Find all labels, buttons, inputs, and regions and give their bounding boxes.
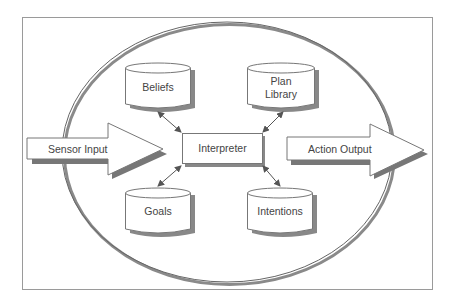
bdi-diagram: Sensor Input Action Output Interpreter B… [0, 0, 454, 307]
action-output-arrow: Action Output [287, 124, 428, 179]
edge-intentions-interpreter [263, 166, 280, 186]
plan-library-store: Plan Library [248, 63, 320, 112]
sensor-input-label: Sensor Input [48, 143, 108, 155]
interpreter-box: Interpreter [183, 134, 266, 168]
plan-library-label-line2: Library [265, 88, 298, 100]
intentions-label: Intentions [257, 205, 303, 217]
beliefs-label: Beliefs [142, 81, 174, 93]
beliefs-store: Beliefs [126, 63, 196, 112]
interpreter-label: Interpreter [198, 142, 247, 154]
plan-library-label-line1: Plan [270, 75, 291, 87]
goals-store: Goals [126, 188, 196, 237]
intentions-store: Intentions [248, 188, 318, 237]
sensor-input-arrow: Sensor Input [27, 123, 167, 179]
edge-goals-interpreter [158, 166, 181, 186]
edge-plan-library-interpreter [263, 112, 283, 132]
edge-beliefs-interpreter [158, 112, 181, 132]
action-output-label: Action Output [308, 143, 372, 155]
goals-label: Goals [144, 205, 171, 217]
